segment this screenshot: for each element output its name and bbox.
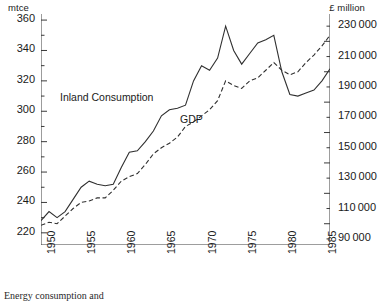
left-axis-ticks: [41, 20, 47, 233]
right-axis-tick-label: 190 000: [338, 79, 382, 91]
left-axis-tick-label: 240: [0, 194, 35, 206]
right-axis-unit-label: £ million: [329, 2, 365, 13]
right-axis-tick-label: 150 000: [338, 140, 382, 152]
right-axis-tick-label: 110 000: [338, 201, 382, 213]
plot-area: [41, 14, 330, 245]
left-axis-tick-label: 300: [0, 103, 35, 115]
left-axis-tick-label: 220: [0, 225, 35, 237]
right-axis-tick-label: 170 000: [338, 109, 382, 121]
left-axis-tick-label: 260: [0, 164, 35, 176]
left-axis-tick-label: 360: [0, 12, 35, 24]
right-axis-tick-label: 130 000: [338, 170, 382, 182]
series-line-gdp: [41, 35, 330, 225]
right-axis-ticks: [324, 26, 330, 239]
left-axis-tick-label: 320: [0, 73, 35, 85]
right-axis-tick-label: 90 000: [338, 231, 382, 243]
left-axis-tick-label: 340: [0, 42, 35, 54]
right-axis-tick-label: 230 000: [338, 18, 382, 30]
series-line-inland-consumption: [41, 26, 330, 221]
right-axis-tick-label: 210 000: [338, 49, 382, 61]
left-axis-tick-label: 280: [0, 134, 35, 146]
axis-lines: [41, 14, 330, 245]
figure-caption: Energy consumption and: [4, 290, 104, 301]
